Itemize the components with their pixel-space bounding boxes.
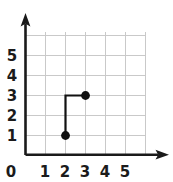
data-point-2-1	[61, 131, 70, 140]
y-axis	[21, 13, 31, 155]
x-tick-label-3: 3	[80, 163, 90, 181]
x-tick-label-5: 5	[120, 163, 130, 181]
x-tick-label-2: 2	[60, 163, 70, 181]
coordinate-plane-svg: 0 1 2 3 4 5 1 2 3 4 5	[0, 0, 173, 182]
x-tick-label-4: 4	[100, 163, 110, 181]
x-tick-label-0: 0	[6, 163, 16, 181]
y-tick-label-3: 3	[7, 87, 17, 105]
coordinate-grid-figure: 0 1 2 3 4 5 1 2 3 4 5	[0, 0, 173, 182]
y-tick-label-1: 1	[7, 127, 17, 145]
x-axis-tick-labels: 0 1 2 3 4 5	[6, 163, 130, 181]
data-point-3-3	[81, 91, 90, 100]
x-axis	[26, 150, 170, 160]
y-tick-label-2: 2	[7, 107, 17, 125]
y-tick-label-5: 5	[7, 47, 17, 65]
grid-vertical-lines	[46, 32, 146, 155]
y-tick-label-4: 4	[7, 67, 17, 85]
x-tick-label-1: 1	[40, 163, 50, 181]
y-axis-tick-labels: 1 2 3 4 5	[7, 47, 17, 145]
